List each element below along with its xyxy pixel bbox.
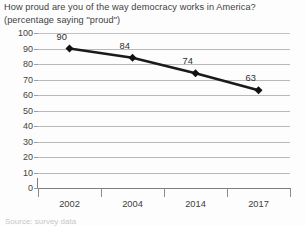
footnote-clipped: Source: survey data [0, 219, 305, 226]
data-point-marker-2002 [66, 45, 74, 53]
y-tick-mark-60 [34, 95, 38, 96]
data-point-label-2014: 74 [183, 56, 193, 66]
series-polyline [70, 49, 259, 91]
y-tick-mark-40 [34, 126, 38, 127]
y-tick-mark-70 [34, 80, 38, 81]
y-tick-mark-30 [34, 142, 38, 143]
y-tick-mark-10 [34, 173, 38, 174]
y-tick-mark-100 [34, 33, 38, 34]
y-tick-mark-90 [34, 49, 38, 50]
y-tick-mark-80 [34, 64, 38, 65]
footnote-text: Source: survey data [5, 219, 76, 226]
data-point-marker-2004 [129, 54, 137, 62]
data-point-marker-2017 [255, 86, 263, 94]
y-tick-mark-50 [34, 111, 38, 112]
data-series-line [0, 0, 305, 226]
chart-figure: How proud are you of the way democracy w… [0, 0, 305, 226]
data-point-label-2002: 90 [57, 32, 67, 42]
data-point-marker-2014 [192, 69, 200, 77]
y-tick-mark-20 [34, 157, 38, 158]
y-tick-mark-0 [34, 188, 38, 189]
data-point-label-2004: 84 [120, 41, 130, 51]
data-point-label-2017: 63 [246, 73, 256, 83]
